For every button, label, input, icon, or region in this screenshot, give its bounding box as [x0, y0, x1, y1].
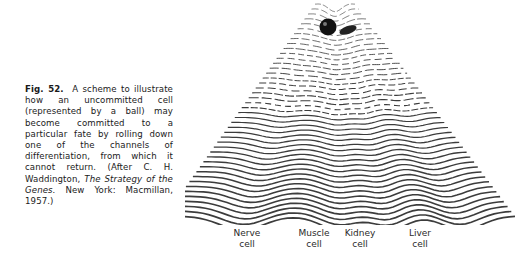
- figure-number: Fig. 52.: [25, 84, 64, 94]
- waddington-landscape-illustration: [185, 0, 515, 225]
- caption-text: A scheme to illustrate how an uncommitte…: [25, 84, 173, 184]
- label-kidney-cell: Kidneycell: [335, 228, 385, 250]
- figure-caption: Fig. 52. A scheme to illustrate how an u…: [25, 84, 173, 207]
- label-nerve-cell: Nervecell: [222, 228, 272, 250]
- channel-labels: Nervecell Musclecell Kidneycell Livercel…: [0, 228, 515, 263]
- label-muscle-cell: Musclecell: [289, 228, 339, 250]
- label-liver-cell: Livercell: [395, 228, 445, 250]
- landscape-icon: [185, 0, 515, 225]
